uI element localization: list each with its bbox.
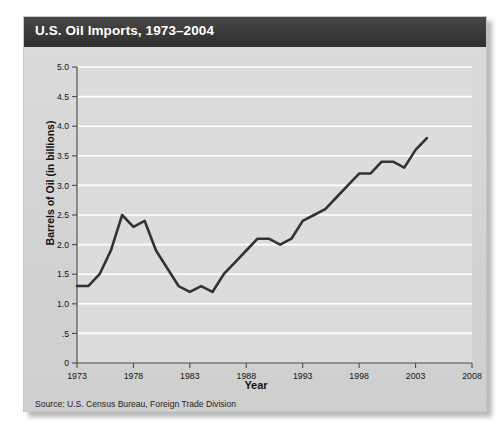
svg-text:1983: 1983 — [180, 371, 200, 379]
svg-text:3.5: 3.5 — [57, 151, 69, 161]
svg-text:1988: 1988 — [236, 371, 256, 379]
line-chart: 0.51.01.52.02.53.03.54.04.55.0 197319781… — [24, 47, 487, 379]
svg-text:1998: 1998 — [349, 371, 369, 379]
svg-text:1978: 1978 — [124, 371, 144, 379]
source-note: Source: U.S. Census Bureau, Foreign Trad… — [35, 399, 236, 409]
screenshot-root: U.S. Oil Imports, 1973–2004 Barrels of O… — [0, 0, 501, 448]
svg-text:3.0: 3.0 — [57, 181, 69, 191]
svg-text:4.5: 4.5 — [57, 92, 69, 102]
figure-title-bar: U.S. Oil Imports, 1973–2004 — [24, 17, 487, 47]
svg-text:1.0: 1.0 — [57, 299, 69, 309]
svg-text:5.0: 5.0 — [57, 62, 69, 72]
svg-text:1.5: 1.5 — [57, 269, 69, 279]
svg-text:1973: 1973 — [67, 371, 87, 379]
svg-text:4.0: 4.0 — [57, 121, 69, 131]
svg-text:0: 0 — [64, 358, 69, 368]
x-axis-title: Year — [24, 379, 487, 391]
svg-text:2.0: 2.0 — [57, 240, 69, 250]
svg-text:.5: .5 — [62, 329, 69, 339]
svg-text:1993: 1993 — [293, 371, 313, 379]
page-title: U.S. Oil Imports, 1973–2004 — [35, 23, 214, 38]
svg-text:2003: 2003 — [406, 371, 426, 379]
figure-card: U.S. Oil Imports, 1973–2004 Barrels of O… — [23, 16, 487, 412]
x-axis-ticks: 19731978198319881993199820032008 — [67, 363, 482, 379]
svg-text:2.5: 2.5 — [57, 210, 69, 220]
svg-text:2008: 2008 — [462, 371, 482, 379]
y-axis-ticks: 0.51.01.52.02.53.03.54.04.55.0 — [57, 62, 77, 368]
